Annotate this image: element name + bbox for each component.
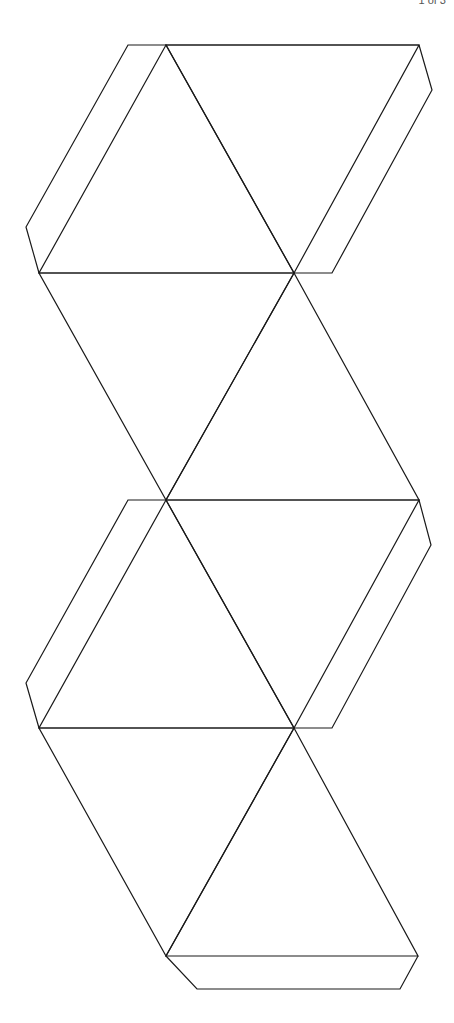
face-6 — [166, 500, 419, 728]
face-8 — [166, 728, 418, 956]
glue-tab-right-1 — [294, 45, 432, 273]
upper-faces — [39, 45, 419, 500]
face-2 — [166, 45, 419, 273]
face-3 — [39, 273, 294, 500]
face-1 — [39, 45, 294, 273]
lower-tabs — [26, 500, 431, 989]
upper-tabs — [26, 45, 432, 273]
face-7 — [39, 728, 294, 956]
octahedron-net — [0, 0, 454, 1023]
glue-tab-right-2 — [294, 500, 431, 728]
glue-tab-left-2 — [26, 500, 166, 728]
lower-faces — [39, 500, 419, 956]
glue-tab-left-1 — [26, 45, 166, 273]
face-5 — [39, 500, 294, 728]
face-4 — [166, 273, 419, 500]
glue-tab-bottom — [166, 956, 418, 989]
